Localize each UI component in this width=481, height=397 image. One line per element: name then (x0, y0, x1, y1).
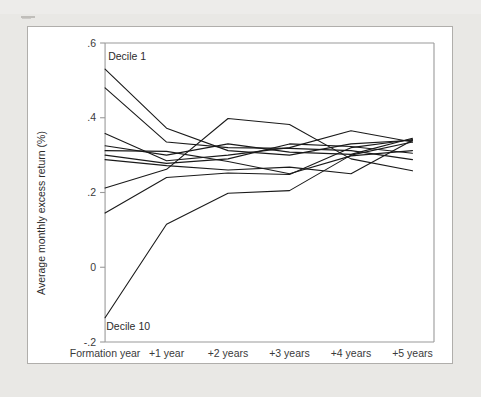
series-group (105, 69, 412, 318)
page-corner-mark (21, 16, 35, 18)
series-annotation-label: Decile 10 (106, 320, 150, 332)
series-line (105, 88, 412, 160)
x-tick-label: +4 years (331, 347, 372, 359)
page-grain-strip (0, 0, 481, 14)
series-annotation-label: Decile 1 (108, 50, 146, 62)
y-tick-label: .4 (87, 111, 96, 123)
x-tick-label: +5 years (392, 347, 433, 359)
y-tick-label: 0 (90, 261, 96, 273)
x-tick-label: +2 years (208, 347, 249, 359)
tick-label-group: -.20.2.4.6Formation year+1 year+2 years+… (70, 37, 433, 359)
figure-panel: Average monthly excess return (%) -.20.2… (27, 26, 453, 364)
y-tick-label: .6 (87, 37, 96, 49)
axis-group (100, 43, 434, 342)
x-tick-label: +3 years (269, 347, 310, 359)
x-tick-label: Formation year (70, 347, 141, 359)
page-background: Average monthly excess return (%) -.20.2… (0, 0, 481, 397)
x-tick-label: +1 year (149, 347, 185, 359)
y-tick-label: -.2 (84, 336, 96, 348)
series-line (105, 69, 412, 155)
y-tick-label: .2 (87, 186, 96, 198)
line-chart: Average monthly excess return (%) -.20.2… (28, 27, 452, 363)
y-axis-label: Average monthly excess return (%) (35, 131, 47, 295)
